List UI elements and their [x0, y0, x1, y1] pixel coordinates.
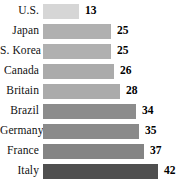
value-label: 25 [111, 25, 129, 37]
bar-track: 37 [43, 141, 178, 161]
value-label: 13 [79, 5, 97, 17]
value-label: 28 [120, 85, 138, 97]
chart-row: Britain28 [0, 81, 178, 101]
bar-track: 25 [43, 41, 178, 61]
category-label: Italy [0, 165, 43, 177]
bar [43, 124, 139, 139]
bar-track: 28 [43, 81, 178, 101]
chart-row: Italy42 [0, 161, 178, 181]
value-label: 26 [114, 65, 132, 77]
bar-track: 35 [43, 121, 178, 141]
bar [43, 84, 120, 99]
value-label: 35 [139, 125, 157, 137]
value-label: 25 [111, 45, 129, 57]
category-label: France [0, 145, 43, 157]
category-label: Japan [0, 25, 43, 37]
chart-row: Japan25 [0, 21, 178, 41]
bar-chart: U.S.13Japan25S. Korea25Canada26Britain28… [0, 0, 178, 183]
bar-track: 34 [43, 101, 178, 121]
chart-row: U.S.13 [0, 1, 178, 21]
value-label: 42 [158, 165, 176, 177]
category-label: Germany [0, 125, 43, 137]
bar-track: 42 [43, 161, 178, 181]
chart-baseline [0, 182, 178, 183]
bar-track: 25 [43, 21, 178, 41]
bar [43, 164, 158, 179]
bar [43, 44, 111, 59]
bar-track: 13 [43, 1, 178, 21]
bar [43, 4, 79, 19]
chart-row: France37 [0, 141, 178, 161]
bar [43, 144, 144, 159]
chart-row: Canada26 [0, 61, 178, 81]
bar-track: 26 [43, 61, 178, 81]
category-label: Britain [0, 85, 43, 97]
chart-row: S. Korea25 [0, 41, 178, 61]
value-label: 37 [144, 145, 162, 157]
category-label: S. Korea [0, 45, 43, 57]
chart-row: Germany35 [0, 121, 178, 141]
chart-row: Brazil34 [0, 101, 178, 121]
value-label: 34 [136, 105, 154, 117]
category-label: U.S. [0, 5, 43, 17]
bar [43, 24, 111, 39]
category-label: Brazil [0, 105, 43, 117]
bar [43, 64, 114, 79]
bar [43, 104, 136, 119]
category-label: Canada [0, 65, 43, 77]
